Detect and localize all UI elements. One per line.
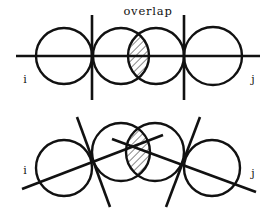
top-label-j: j	[249, 73, 254, 86]
bottom-separator-left	[77, 117, 110, 207]
overlap-label: overlap	[123, 4, 172, 18]
top-diagram	[16, 15, 260, 100]
bottom-circle-1	[36, 140, 92, 196]
overlap-diagram: overlap i j i j	[0, 0, 274, 219]
bottom-diagram	[22, 117, 256, 207]
bottom-label-i: i	[23, 164, 27, 177]
top-label-i: i	[23, 73, 27, 86]
bottom-label-j: j	[249, 167, 254, 180]
